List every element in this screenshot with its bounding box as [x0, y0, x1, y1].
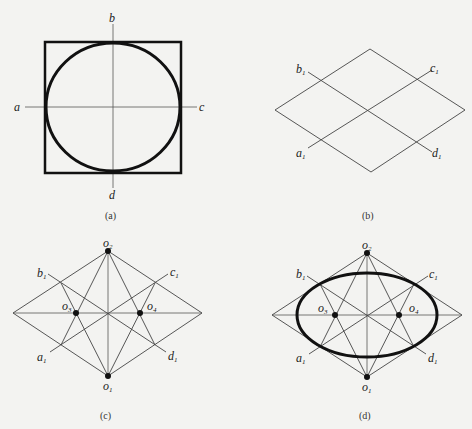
panel-a: b a c d (a) [14, 11, 205, 222]
line-o2-d1 [108, 251, 155, 345]
panel-c: o2 o1 o3 o4 b1 c1 a1 d1 (c) [13, 236, 202, 422]
line-o1-c1 [367, 284, 414, 377]
label-o4: o4 [147, 299, 157, 314]
point-o4 [396, 312, 402, 318]
label-a1: a1 [296, 351, 306, 366]
label-b1: b1 [296, 267, 306, 282]
line-o2-a1 [320, 253, 367, 347]
label-a1: a1 [37, 350, 47, 365]
line-o1-c1 [108, 283, 155, 376]
line-a1-c1 [308, 70, 432, 148]
line-o2-a1 [61, 251, 108, 345]
label-o3: o3 [318, 301, 328, 316]
label-d1: d1 [432, 146, 442, 161]
label-c1: c1 [170, 265, 179, 280]
label-b: b [109, 11, 115, 25]
panel-d: o2 o1 o3 o4 b1 c1 a1 d1 (d) [272, 238, 462, 422]
point-o3 [73, 310, 79, 316]
label-b1: b1 [296, 62, 306, 77]
caption-a: (a) [105, 210, 116, 222]
label-o1: o1 [362, 380, 372, 395]
line-o1-b1 [320, 284, 367, 377]
label-c: c [199, 100, 205, 114]
label-c1: c1 [429, 267, 438, 282]
line-o2-d1 [367, 253, 414, 347]
caption-b: (b) [362, 210, 374, 222]
line-o1-b1 [61, 283, 108, 376]
point-o3 [332, 312, 338, 318]
label-o1: o1 [103, 379, 113, 394]
caption-d: (d) [359, 410, 371, 422]
label-o2: o2 [103, 236, 113, 251]
panel-b: b1 c1 a1 d1 (b) [275, 49, 465, 222]
isometric-ellipse-diagram: b a c d (a) b1 c1 a1 d1 (b) o2 o1 o3 o4 … [0, 0, 472, 429]
label-o4: o4 [409, 301, 419, 316]
figure-canvas: b a c d (a) b1 c1 a1 d1 (b) o2 o1 o3 o4 … [0, 0, 472, 429]
label-d1: d1 [168, 349, 178, 364]
caption-c: (c) [100, 410, 111, 422]
label-c1: c1 [430, 61, 439, 76]
line-b1-d1 [308, 72, 432, 152]
label-b1: b1 [37, 266, 47, 281]
label-o2: o2 [362, 238, 372, 253]
point-o4 [137, 310, 143, 316]
label-a: a [14, 100, 20, 114]
label-d: d [109, 188, 116, 202]
label-d1: d1 [428, 351, 438, 366]
label-a1: a1 [296, 146, 306, 161]
